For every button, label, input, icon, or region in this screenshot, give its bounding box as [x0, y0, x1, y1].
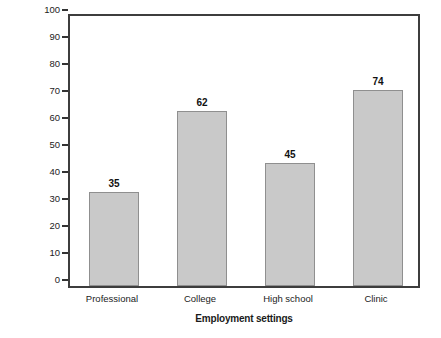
x-axis-category-label: College [184, 292, 216, 305]
y-axis-tick-label: 90 [49, 31, 60, 43]
y-axis-tick-label: 70 [49, 85, 60, 97]
x-axis-category-label: Clinic [364, 292, 387, 305]
y-axis-tick-label: 60 [49, 112, 60, 124]
y-axis-tick-label: 20 [49, 220, 60, 232]
y-axis-tick-label: 80 [49, 58, 60, 70]
y-axis-tick-mark [62, 198, 68, 200]
y-axis-tick-mark [62, 9, 68, 11]
y-axis-tick-mark [62, 279, 68, 281]
bar: 62 [177, 111, 227, 287]
bar-value-label: 35 [108, 178, 119, 189]
y-axis-tick-mark [62, 63, 68, 65]
y-axis-tick-mark [62, 225, 68, 227]
y-axis-tick-label: 10 [49, 247, 60, 259]
bar-value-label: 74 [372, 76, 383, 87]
y-axis-tick-mark [62, 36, 68, 38]
bar-value-label: 45 [284, 149, 295, 160]
bar: 35 [89, 192, 139, 287]
y-axis-tick-mark [62, 171, 68, 173]
plot-inner: 010203040506070809010035624574 [70, 16, 418, 286]
bar-value-label: 62 [196, 97, 207, 108]
y-axis-tick-mark [62, 90, 68, 92]
bar: 45 [265, 163, 315, 286]
y-axis-tick-label: 100 [44, 4, 60, 16]
y-axis-tick-label: 30 [49, 193, 60, 205]
bar: 74 [353, 90, 403, 286]
x-axis-category-label: Professional [86, 292, 138, 305]
y-axis-tick-mark [62, 117, 68, 119]
plot-area: 010203040506070809010035624574 [68, 14, 420, 288]
bar-chart-figure: Percent of athletic trainers 01020304050… [0, 0, 441, 338]
y-axis-tick-mark [62, 144, 68, 146]
y-axis-tick-label: 50 [49, 139, 60, 151]
y-axis-tick-label: 0 [55, 274, 60, 286]
y-axis-tick-label: 40 [49, 166, 60, 178]
x-axis-category-label: High school [263, 292, 313, 305]
x-axis-title: Employment settings [68, 313, 420, 324]
y-axis-tick-mark [62, 252, 68, 254]
